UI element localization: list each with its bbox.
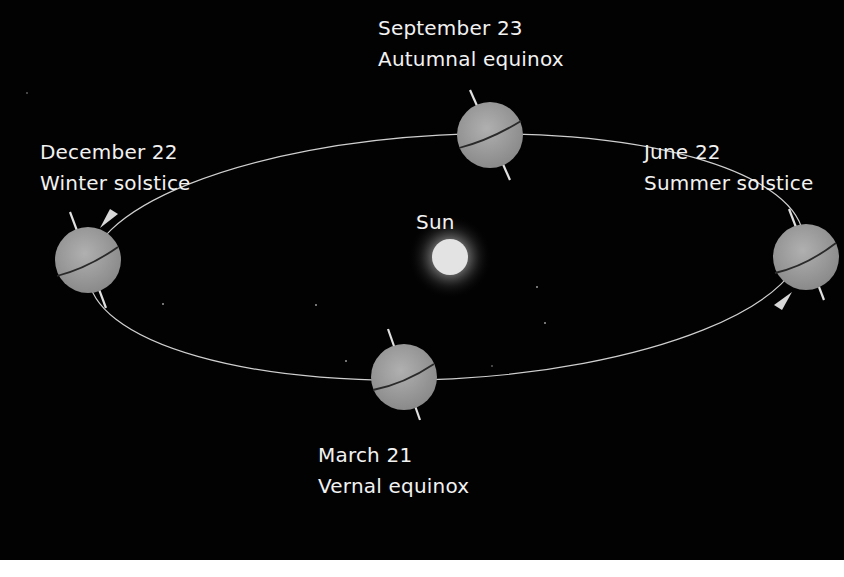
label-summer-solstice: June 22 Summer solstice bbox=[644, 137, 814, 199]
orbit-diagram: September 23 Autumnal equinox December 2… bbox=[0, 0, 844, 560]
label-autumnal-equinox: September 23 Autumnal equinox bbox=[378, 13, 564, 75]
date-text: March 21 bbox=[318, 440, 469, 471]
earth-globe-icon bbox=[457, 90, 523, 180]
event-text: Summer solstice bbox=[644, 168, 814, 199]
earth-globe-icon bbox=[55, 212, 121, 308]
sun-label: Sun bbox=[416, 207, 455, 238]
event-text: Vernal equinox bbox=[318, 471, 469, 502]
date-text: December 22 bbox=[40, 137, 191, 168]
date-text: September 23 bbox=[378, 13, 564, 44]
earth-globe-icon bbox=[773, 209, 839, 300]
event-text: Autumnal equinox bbox=[378, 44, 564, 75]
earth-globe-icon bbox=[371, 329, 437, 420]
event-text: Winter solstice bbox=[40, 168, 191, 199]
date-text: June 22 bbox=[644, 137, 814, 168]
label-winter-solstice: December 22 Winter solstice bbox=[40, 137, 191, 199]
label-vernal-equinox: March 21 Vernal equinox bbox=[318, 440, 469, 502]
sun-label-text: Sun bbox=[416, 207, 455, 238]
